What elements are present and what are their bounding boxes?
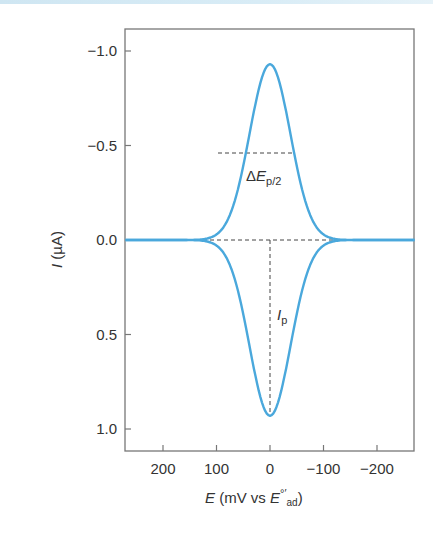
y-tick-label: 0.5 <box>96 326 117 343</box>
upper-peak-curve <box>126 64 415 240</box>
y-tick-label: 0.0 <box>96 231 117 248</box>
chart: −1.0−0.50.00.51.0 2001000−100−200 ΔEp/2 … <box>0 0 433 541</box>
x-tick-label: 0 <box>266 460 274 477</box>
x-tick-label: −100 <box>307 460 341 477</box>
x-axis-ticks: 2001000−100−200 <box>150 445 393 477</box>
x-tick-label: 100 <box>204 460 229 477</box>
peak-current-label: Ip <box>277 306 287 326</box>
delta-ep-half-label: ΔEp/2 <box>246 167 281 187</box>
x-axis-title: E (mV vs E°′ad) <box>205 487 303 508</box>
x-tick-label: 200 <box>150 460 175 477</box>
y-tick-label: 1.0 <box>96 420 117 437</box>
y-axis-title: I (µA) <box>48 231 65 268</box>
y-tick-label: −1.0 <box>87 42 117 59</box>
y-tick-label: −0.5 <box>87 137 117 154</box>
x-tick-label: −200 <box>360 460 394 477</box>
